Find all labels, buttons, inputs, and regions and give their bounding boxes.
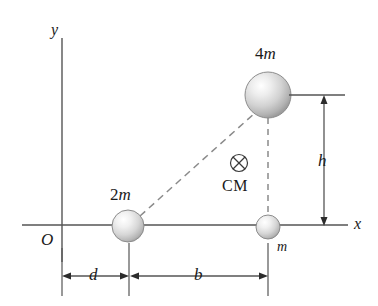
physics-diagram-figure: y x O 2m 4m m CM d b h <box>0 0 378 306</box>
mass-label-2m-number: 2 <box>110 185 119 204</box>
arrowhead-d-right <box>120 273 129 280</box>
arrowhead-b-left <box>130 273 139 280</box>
mass-spheres <box>112 72 291 242</box>
mass-label-4m-number: 4 <box>255 44 264 63</box>
sphere-4m <box>245 72 291 118</box>
dashed-connectors <box>140 112 268 216</box>
arrowhead-b-right <box>259 273 268 280</box>
center-of-mass-marker <box>231 155 248 172</box>
y-axis-label: y <box>51 22 58 38</box>
mass-label-2m: 2m <box>110 186 131 203</box>
dimension-label-d: d <box>89 266 98 283</box>
x-axis-label: x <box>354 216 361 232</box>
mass-label-4m: 4m <box>255 45 276 62</box>
mass-label-2m-variable: m <box>119 185 131 204</box>
arrowhead-d-left <box>62 273 71 280</box>
dimension-label-b: b <box>194 266 203 283</box>
mass-label-m: m <box>277 240 287 254</box>
center-of-mass-label: CM <box>222 178 248 194</box>
arrowhead-h-up <box>321 95 328 104</box>
sphere-m <box>256 215 280 239</box>
sphere-2m <box>112 210 144 242</box>
dimension-h-group <box>289 95 345 226</box>
origin-label: O <box>41 231 53 248</box>
mass-label-4m-variable: m <box>264 44 276 63</box>
axis-lines <box>22 38 348 262</box>
dimension-label-h: h <box>318 152 327 169</box>
